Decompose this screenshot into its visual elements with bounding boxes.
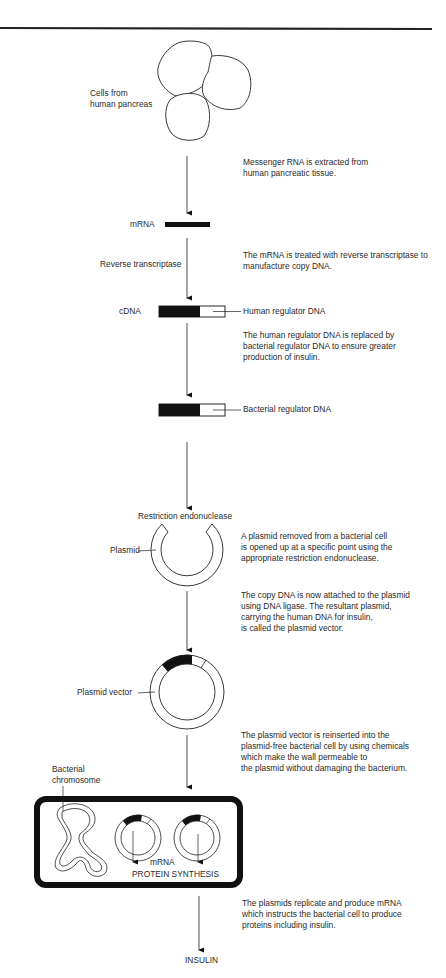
- mrna-strand-icon: [165, 222, 210, 227]
- diagram-graphics: [0, 0, 446, 978]
- enzyme-label: Reverse transcriptase: [100, 259, 181, 270]
- plasmid-vector-icon: [150, 655, 224, 729]
- plasmid-in-cell-icon: [174, 815, 220, 862]
- step-description: The mRNA is treated with reverse transcr…: [243, 250, 428, 272]
- protein-synthesis-label: PROTEIN SYNTHESIS: [132, 869, 219, 880]
- cells-label: Cells from human pancreas: [90, 88, 152, 110]
- plasmid-label: Plasmid: [110, 545, 140, 556]
- enzyme-label: Restriction endonuclease: [138, 511, 232, 522]
- plasmid-vector-label: Plasmid vector: [77, 687, 132, 698]
- step-description: The plasmid vector is reinserted into th…: [241, 730, 409, 774]
- step-description: The copy DNA is now attached to the plas…: [241, 590, 410, 634]
- mrna-cell-label: mRNA: [150, 857, 175, 868]
- pancreas-cells-icon: [158, 41, 251, 140]
- callout-bacterial-regulator-dna: Bacterial regulator DNA: [243, 404, 331, 415]
- step-description: Messenger RNA is extracted from human pa…: [243, 157, 368, 179]
- cdna-label: cDNA: [119, 306, 141, 317]
- insulin-label: INSULIN: [185, 955, 218, 966]
- chromosome-label: Bacterial chromosome: [52, 764, 100, 786]
- step-description: The plasmids replicate and produce mRNA …: [242, 898, 402, 931]
- mrna-label: mRNA: [130, 219, 155, 230]
- top-rule: [0, 28, 432, 29]
- plasmid-in-cell-icon: [115, 815, 161, 862]
- open-plasmid-icon: [151, 524, 223, 586]
- step-description: The human regulator DNA is replaced by b…: [243, 330, 396, 363]
- step-description: A plasmid removed from a bacterial cell …: [241, 531, 392, 564]
- callout-human-regulator-dna: Human regulator DNA: [243, 306, 325, 317]
